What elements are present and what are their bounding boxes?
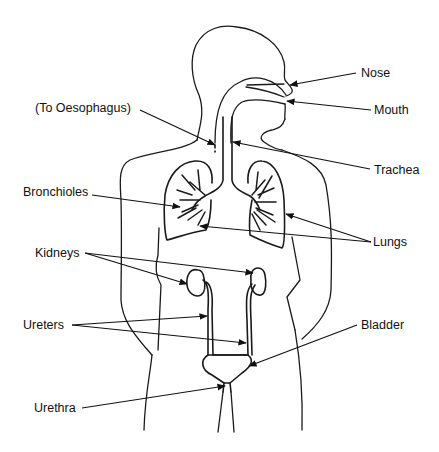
label-bronchioles: Bronchioles bbox=[23, 185, 88, 199]
label-ureters: Ureters bbox=[23, 318, 64, 332]
urinary-drawing bbox=[187, 268, 266, 432]
lungs-drawing bbox=[164, 161, 284, 248]
anatomy-diagram: Nose Mouth (To Oesophagus) Trachea Bronc… bbox=[0, 0, 439, 452]
label-kidneys: Kidneys bbox=[35, 246, 79, 260]
label-oesophagus: (To Oesophagus) bbox=[35, 101, 131, 115]
trachea-drawing bbox=[192, 117, 260, 210]
label-bladder: Bladder bbox=[361, 318, 404, 332]
label-mouth: Mouth bbox=[374, 103, 409, 117]
label-trachea: Trachea bbox=[374, 163, 419, 177]
leader-lines bbox=[72, 73, 371, 408]
label-urethra: Urethra bbox=[34, 401, 76, 415]
label-nose: Nose bbox=[361, 66, 390, 80]
label-lungs: Lungs bbox=[373, 235, 407, 249]
